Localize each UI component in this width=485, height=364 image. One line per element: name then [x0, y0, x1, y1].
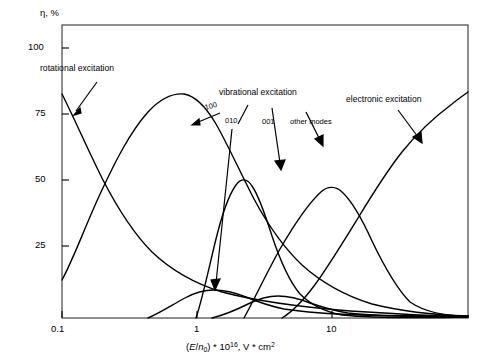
chart-figure: η, % 100 75 50 25 0.1 1 10 (E/n0) * 1016… [0, 0, 485, 364]
x-title-close: ) * 10 [207, 341, 230, 352]
plot-frame [62, 25, 468, 318]
annotation-other-modes: other modes [290, 118, 332, 126]
x-tick-10: 10 [326, 324, 337, 334]
x-title-exp: 16 [230, 341, 238, 348]
x-tick-1: 1 [194, 324, 199, 334]
x-title-tail: , V * cm [238, 341, 271, 352]
x-tick-0.1: 0.1 [51, 324, 64, 334]
y-tick-25: 25 [35, 240, 46, 250]
x-axis-title: (E/n0) * 1016, V * cm2 [186, 342, 275, 354]
y-tick-75: 75 [35, 108, 46, 118]
y-axis-title: η, % [40, 8, 59, 18]
y-tick-100: 100 [28, 42, 44, 52]
annotation-mode-010: 010 [225, 117, 238, 125]
plot-canvas [0, 0, 485, 364]
y-tick-50: 50 [35, 174, 46, 184]
annotation-vibrational-excitation: vibrational excitation [219, 88, 297, 97]
annotation-electronic-excitation: electronic excitation [346, 95, 421, 104]
annotation-mode-001: 001 [262, 118, 275, 126]
annotation-rotational-excitation: rotational excitation [40, 64, 114, 73]
x-title-tail-exp: 2 [271, 341, 275, 348]
